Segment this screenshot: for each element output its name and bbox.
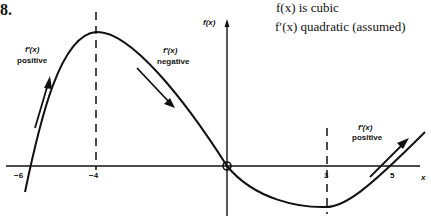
middle-annotation-line1: f′(x): [163, 46, 178, 55]
left-arrow-icon: [35, 76, 52, 128]
left-annotation-line2: positive: [17, 56, 48, 65]
cubic-curve: [25, 32, 425, 207]
cubic-graph: 8. f(x) is cubic f′(x) quadratic (assume…: [0, 0, 431, 216]
tick-label-5: 5: [390, 171, 395, 180]
y-axis-arrow-icon: [225, 19, 230, 27]
x-axis-label: x: [420, 173, 426, 182]
problem-number: 8.: [0, 1, 12, 18]
left-annotation-line1: f′(x): [25, 45, 40, 54]
note-line-1: f(x) is cubic: [276, 0, 339, 15]
tick-label-3: 3: [324, 171, 329, 180]
y-axis-label: f(x): [203, 18, 216, 27]
tick-label-neg4: −4: [89, 171, 99, 180]
middle-annotation-line2: negative: [157, 57, 190, 66]
right-annotation-line2: positive: [352, 133, 383, 142]
note-line-2: f′(x) quadratic (assumed): [275, 19, 406, 34]
tick-label-neg6: −6: [14, 171, 24, 180]
middle-arrow-icon: [137, 68, 175, 108]
right-annotation-line1: f′(x): [358, 123, 373, 132]
